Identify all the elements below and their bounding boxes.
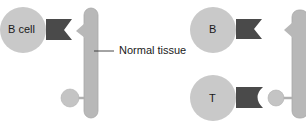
normal-tissue-label: Normal tissue xyxy=(119,45,186,56)
right-panel xyxy=(190,7,306,121)
t-cell-label: T xyxy=(209,93,216,104)
self-antigen-lollipop xyxy=(61,89,79,107)
antigen-triangle xyxy=(284,22,293,38)
t-cell-receptor xyxy=(236,87,263,108)
b-cell-right-label: B xyxy=(209,24,216,35)
tissue-bar xyxy=(292,10,306,118)
b-cell-label: B cell xyxy=(8,24,35,35)
normal-tissue-bar xyxy=(84,8,98,118)
antigen-lollipop xyxy=(268,90,284,106)
b-cell-receptor-right xyxy=(236,19,262,39)
self-antigen-triangle xyxy=(76,23,85,38)
diagram-canvas xyxy=(0,0,306,124)
b-cell-receptor xyxy=(46,19,72,40)
